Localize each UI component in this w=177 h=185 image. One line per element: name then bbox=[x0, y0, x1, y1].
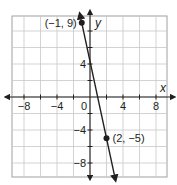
data-point bbox=[104, 135, 110, 141]
x-tick-label: −4 bbox=[51, 100, 64, 112]
x-tick-label: 8 bbox=[153, 100, 159, 112]
coordinate-plane: −8−40484−4−8 (−1, 9)(2, −5) x y bbox=[0, 0, 177, 185]
x-tick-label: −8 bbox=[18, 100, 31, 112]
data-point bbox=[79, 20, 85, 26]
y-tick-label: −8 bbox=[73, 157, 86, 169]
x-tick-label: 0 bbox=[81, 100, 87, 112]
point-label: (−1, 9) bbox=[45, 17, 77, 29]
y-axis-label: y bbox=[94, 16, 102, 30]
y-tick-label: −4 bbox=[73, 124, 86, 136]
x-axis-label: x bbox=[159, 81, 167, 95]
y-tick-label: 4 bbox=[80, 58, 86, 70]
point-label: (2, −5) bbox=[113, 132, 145, 144]
x-tick-label: 4 bbox=[120, 100, 126, 112]
